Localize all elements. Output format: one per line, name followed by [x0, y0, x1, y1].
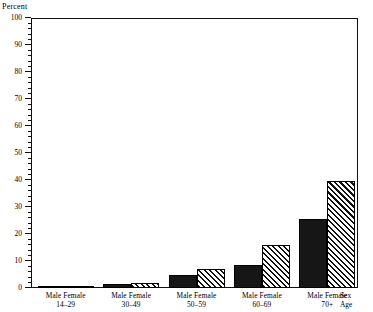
y-tick-label: 100 — [0, 14, 22, 22]
bar-female-14_29 — [66, 286, 94, 288]
y-tick-label: 60 — [0, 122, 22, 130]
group-sex-label: Male Female — [287, 291, 367, 300]
bar-male-60_69 — [234, 265, 262, 288]
y-tick-label: 80 — [0, 68, 22, 76]
y-tick-label: 50 — [0, 149, 22, 157]
bar-male-50_59 — [169, 275, 197, 289]
bar-female-60_69 — [262, 245, 290, 288]
y-tick-label: 40 — [0, 176, 22, 184]
bar-female-30_49 — [131, 283, 159, 288]
bars-layer — [31, 18, 358, 288]
axis-name-sex: Sex — [340, 291, 352, 300]
y-tick-label: 30 — [0, 203, 22, 211]
y-axis-title: Percent — [2, 2, 27, 11]
bar-chart: Percent 0102030405060708090100 Male Fema… — [0, 0, 373, 312]
y-tick-label: 20 — [0, 230, 22, 238]
axis-name-age: Age — [340, 300, 352, 309]
y-tick-label: 90 — [0, 41, 22, 49]
bar-male-70+ — [299, 219, 327, 288]
y-tick-label: 70 — [0, 95, 22, 103]
group-age-label: 70+ — [287, 300, 367, 309]
bar-female-50_59 — [197, 269, 225, 288]
bar-male-14_29 — [38, 286, 66, 288]
x-group-label-70+: Male Female70+ — [287, 291, 367, 309]
y-tick-label: 0 — [0, 284, 22, 292]
y-tick-label: 10 — [0, 257, 22, 265]
axis-name-block: Sex Age — [340, 291, 352, 309]
bar-male-30_49 — [103, 284, 131, 288]
bar-female-70+ — [327, 181, 355, 288]
